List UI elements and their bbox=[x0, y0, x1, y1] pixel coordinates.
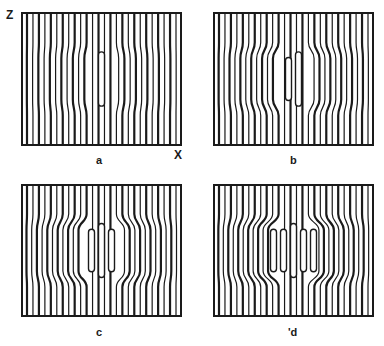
panel-b-label: b bbox=[290, 155, 297, 166]
panel-c-stripe-pattern bbox=[21, 184, 182, 317]
stripe-lines bbox=[215, 186, 372, 315]
z-axis-label: Z bbox=[6, 9, 13, 21]
panel-c-label: c bbox=[96, 327, 102, 338]
x-axis-label: X bbox=[174, 149, 182, 161]
panel-d-stripe-pattern bbox=[213, 184, 374, 317]
panel-a-stripe-pattern bbox=[21, 12, 182, 146]
panel-b-stripe-pattern bbox=[213, 12, 374, 146]
stripe-lines bbox=[23, 186, 180, 315]
panel-a-label: a bbox=[96, 155, 102, 166]
panel-d-label: 'd bbox=[288, 327, 297, 338]
stripe-lines bbox=[23, 14, 180, 144]
stripe-lines bbox=[215, 14, 372, 144]
